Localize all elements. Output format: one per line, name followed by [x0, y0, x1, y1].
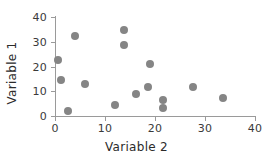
y-tick-label: 10 — [33, 85, 47, 98]
y-tick-label: 40 — [33, 11, 47, 24]
y-tick-label: 30 — [33, 35, 47, 48]
x-tick-label: 0 — [51, 122, 58, 135]
scatter-point — [120, 41, 128, 49]
y-axis-title: Variable 1 — [5, 23, 19, 123]
scatter-point — [71, 32, 79, 40]
scatter-point — [64, 107, 72, 115]
scatter-point — [144, 83, 152, 91]
scatter-point — [120, 26, 128, 34]
scatter-point — [132, 90, 140, 98]
scatter-point — [57, 76, 65, 84]
y-tick-label: 20 — [33, 60, 47, 73]
scatter-point — [111, 101, 119, 109]
scatter-point — [219, 94, 227, 102]
x-axis-title: Variable 2 — [0, 140, 273, 154]
x-tick-mark — [105, 117, 106, 121]
scatter-point — [189, 83, 197, 91]
x-tick-mark — [255, 117, 256, 121]
scatter-plot-figure: Variable 2 Variable 1 010203040010203040 — [0, 0, 273, 161]
plot-area — [55, 17, 255, 116]
x-tick-label: 40 — [248, 122, 262, 135]
x-tick-label: 20 — [148, 122, 162, 135]
x-tick-mark — [205, 117, 206, 121]
x-tick-label: 30 — [198, 122, 212, 135]
scatter-point — [159, 104, 167, 112]
scatter-point — [159, 96, 167, 104]
scatter-point — [81, 80, 89, 88]
y-tick-mark — [51, 116, 55, 117]
x-tick-mark — [55, 117, 56, 121]
x-tick-mark — [155, 117, 156, 121]
x-tick-label: 10 — [98, 122, 112, 135]
scatter-point — [146, 60, 154, 68]
y-tick-label: 0 — [40, 110, 47, 123]
scatter-point — [54, 56, 62, 64]
